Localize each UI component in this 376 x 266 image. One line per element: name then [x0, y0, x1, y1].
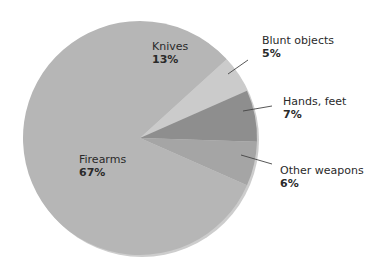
label-knives-name: Knives [152, 40, 188, 53]
label-other: Other weapons 6% [280, 164, 364, 190]
label-firearms-name: Firearms [79, 153, 126, 166]
pie-slices [23, 21, 257, 255]
label-hands-pct: 7% [283, 108, 346, 121]
label-firearms: Firearms 67% [79, 153, 126, 179]
label-knives-pct: 13% [152, 53, 188, 66]
label-firearms-pct: 67% [79, 166, 126, 179]
label-knives: Knives 13% [152, 40, 188, 66]
label-blunt-name: Blunt objects [262, 34, 334, 47]
label-hands-name: Hands, feet [283, 95, 346, 108]
label-blunt: Blunt objects 5% [262, 34, 334, 60]
label-other-pct: 6% [280, 177, 364, 190]
label-hands: Hands, feet 7% [283, 95, 346, 121]
label-blunt-pct: 5% [262, 47, 334, 60]
label-other-name: Other weapons [280, 164, 364, 177]
